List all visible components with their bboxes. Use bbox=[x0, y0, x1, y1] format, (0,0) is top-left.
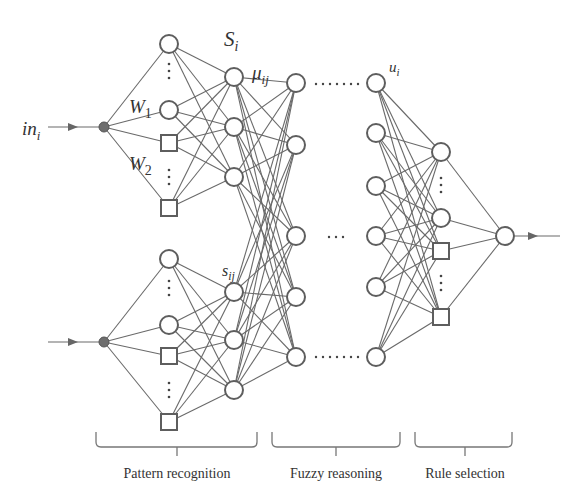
pattern-layer-node bbox=[160, 316, 178, 334]
bracket-fuzzy-reasoning bbox=[272, 432, 400, 447]
membership-node bbox=[225, 331, 243, 349]
rule-node bbox=[433, 243, 449, 259]
membership-node bbox=[225, 118, 243, 136]
fuzzy-output-node bbox=[367, 177, 385, 195]
input-node bbox=[99, 337, 109, 347]
bracket-rule-selection bbox=[415, 432, 512, 447]
pattern-layer-node bbox=[161, 200, 177, 216]
pattern-layer-node bbox=[160, 101, 178, 119]
section-label-rule-selection: Rule selection bbox=[425, 466, 505, 481]
rule-node bbox=[432, 143, 450, 161]
membership-node bbox=[225, 168, 243, 186]
fuzzy-output-node bbox=[367, 278, 385, 296]
network-nodes bbox=[160, 35, 514, 430]
rule-node bbox=[433, 309, 449, 325]
fuzzy-input-node bbox=[287, 348, 305, 366]
pattern-layer-node bbox=[161, 414, 177, 430]
fuzzy-neural-network-diagram: ini W1 W2 Si μij sij ui Pattern recognit… bbox=[0, 0, 588, 503]
label-mu-ij: μij bbox=[251, 62, 269, 87]
arrow-icon bbox=[528, 232, 538, 240]
label-u-i: ui bbox=[389, 59, 400, 78]
fuzzy-output-node bbox=[367, 74, 385, 92]
label-w2: W2 bbox=[129, 153, 152, 178]
membership-node bbox=[225, 283, 243, 301]
vertical-ellipses bbox=[168, 63, 443, 399]
rule-node bbox=[432, 209, 450, 227]
output-node bbox=[496, 227, 514, 245]
horizontal-ellipses bbox=[315, 83, 359, 358]
arrow-icon bbox=[68, 123, 78, 131]
arrow-icon bbox=[68, 338, 78, 346]
input-node bbox=[99, 122, 109, 132]
label-input: ini bbox=[22, 118, 41, 143]
fuzzy-output-node bbox=[367, 348, 385, 366]
membership-node bbox=[225, 381, 243, 399]
membership-node bbox=[225, 68, 243, 86]
section-label-pattern-recognition: Pattern recognition bbox=[124, 466, 231, 481]
pattern-layer-node bbox=[161, 348, 177, 364]
pattern-layer-node bbox=[161, 135, 177, 151]
pattern-layer-node bbox=[160, 250, 178, 268]
fuzzy-input-node bbox=[287, 74, 305, 92]
fuzzy-input-node bbox=[287, 227, 305, 245]
pattern-layer-node bbox=[160, 35, 178, 53]
bracket-pattern-recognition bbox=[96, 432, 257, 447]
fuzzy-input-node bbox=[287, 288, 305, 306]
fuzzy-output-node bbox=[367, 124, 385, 142]
fuzzy-output-node bbox=[367, 227, 385, 245]
label-s-ij: sij bbox=[222, 262, 236, 283]
label-s-i: Si bbox=[224, 27, 239, 54]
section-label-fuzzy-reasoning: Fuzzy reasoning bbox=[290, 466, 382, 481]
fuzzy-input-node bbox=[287, 136, 305, 154]
section-brackets bbox=[96, 432, 512, 456]
